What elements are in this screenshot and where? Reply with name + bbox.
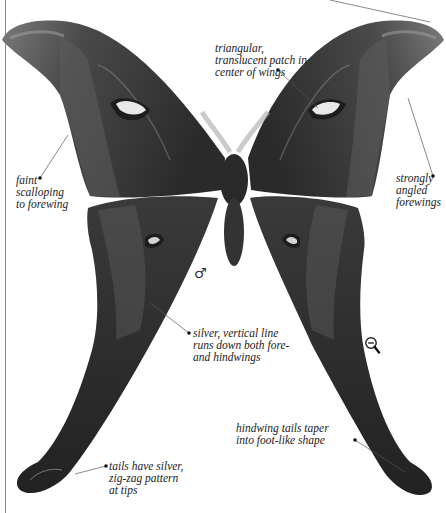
annotation-patch: triangular, translucent patch in center … <box>215 42 307 78</box>
annotation-tails-taper: hindwing tails taper into foot-like shap… <box>236 422 329 446</box>
annotation-silver-line: silver, vertical line runs down both for… <box>193 327 289 363</box>
zoom-out-button[interactable] <box>364 336 382 356</box>
annotation-angled: strongly angled forewings <box>396 172 441 208</box>
left-forewing <box>2 21 225 198</box>
male-symbol: ♂ <box>194 265 207 281</box>
left-hindwing <box>17 196 218 493</box>
annotation-scalloping: faint scalloping to forewing <box>16 174 68 210</box>
zoom-out-icon <box>364 336 382 356</box>
annotation-tails-silver: tails have silver, zig-zag pattern at ti… <box>109 460 183 496</box>
figure-page: triangular, translucent patch in center … <box>0 0 446 513</box>
